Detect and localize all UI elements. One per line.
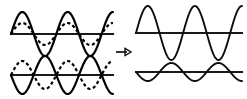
superposition-arrow (116, 48, 131, 55)
wave-diagram-canvas (0, 0, 247, 99)
wave-superposition-figure (0, 0, 247, 99)
panel-constructive-input (11, 12, 113, 56)
panel-destructive-result (136, 63, 242, 81)
panel-destructive-input (11, 56, 113, 94)
panel-constructive-result (136, 6, 242, 60)
